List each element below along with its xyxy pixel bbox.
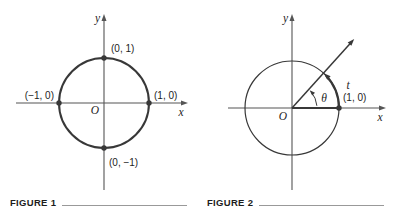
fig1-point-right: [146, 100, 151, 105]
fig1-caption: FIGURE 1: [10, 197, 57, 208]
fig2-y-axis-label: y: [282, 12, 289, 25]
fig2-y-axis-arrowhead: [290, 14, 295, 21]
fig1-x-axis-arrowhead: [181, 101, 188, 106]
figure-1: y x O (0, 1) (−1, 0) (1, 0) (0, −1) FIGU…: [10, 12, 188, 208]
figure-2: y x O θ t (1, 0) FIGURE 2: [207, 12, 386, 208]
fig2-caption: FIGURE 2: [207, 197, 253, 208]
fig1-y-axis-arrowhead: [102, 14, 107, 21]
fig2-arc-label: t: [346, 79, 350, 91]
fig2-arc-t: [326, 76, 339, 108]
fig2-point-right: [336, 105, 341, 110]
fig2-origin-label: O: [279, 110, 288, 122]
fig2-x-axis-arrowhead: [379, 106, 386, 111]
fig1-point-label-left: (−1, 0): [25, 90, 54, 101]
fig2-angle-label: θ: [321, 92, 327, 104]
fig1-point-label-bottom: (0, −1): [109, 157, 138, 168]
unit-circle-figures: y x O (0, 1) (−1, 0) (1, 0) (0, −1) FIGU…: [0, 0, 394, 217]
fig1-point-top: [101, 55, 106, 60]
fig2-point-label-right: (1, 0): [343, 92, 366, 103]
fig1-point-bottom: [101, 145, 106, 150]
fig1-y-axis-label: y: [94, 12, 101, 25]
fig1-x-axis-label: x: [177, 106, 184, 118]
fig1-point-label-right: (1, 0): [154, 90, 177, 101]
fig1-point-label-top: (0, 1): [111, 43, 134, 54]
fig2-x-axis-label: x: [376, 111, 383, 123]
fig1-origin-label: O: [91, 104, 100, 116]
textbook-figure-panel: y x O (0, 1) (−1, 0) (1, 0) (0, −1) FIGU…: [0, 0, 394, 217]
fig1-point-left: [56, 100, 61, 105]
